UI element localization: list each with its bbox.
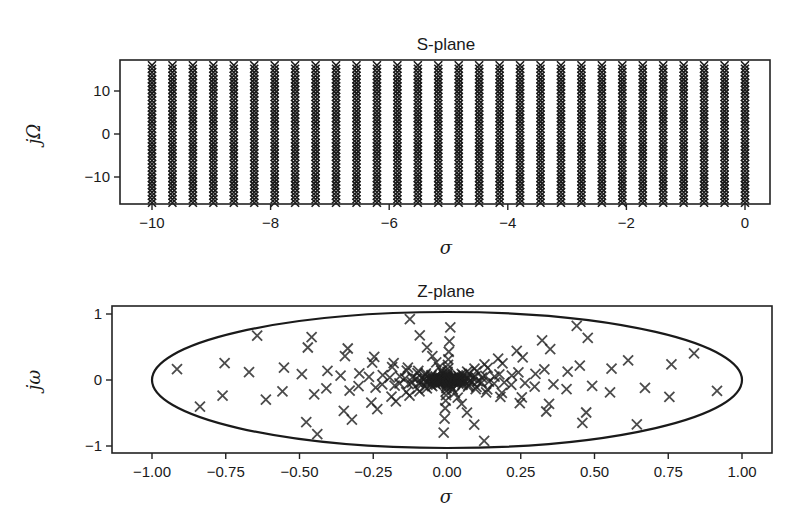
x-marker — [405, 391, 415, 401]
z-plane-title: Z-plane — [417, 282, 475, 301]
x-marker — [462, 408, 472, 418]
x-marker — [537, 335, 547, 345]
x-marker — [581, 407, 591, 417]
x-marker — [689, 348, 699, 358]
x-tick-label: 1.00 — [727, 463, 756, 480]
s-plane-chart: S-plane −10−8−6−4−20 100−10 σ jΩ — [23, 35, 770, 258]
x-tick-label: 0.75 — [654, 463, 683, 480]
x-marker — [172, 364, 182, 374]
y-tick-label: −10 — [85, 168, 110, 185]
x-marker — [605, 387, 615, 397]
x-marker — [220, 358, 230, 368]
x-marker — [321, 383, 331, 393]
x-marker — [623, 355, 633, 365]
x-marker — [364, 372, 374, 382]
x-marker — [322, 366, 332, 376]
x-marker — [575, 361, 585, 371]
x-tick-label: −2 — [618, 214, 635, 231]
x-marker — [445, 322, 455, 332]
x-tick-label: −6 — [381, 214, 398, 231]
x-marker — [347, 415, 357, 425]
x-tick-label: −0.50 — [281, 463, 319, 480]
x-marker — [307, 332, 317, 342]
s-plane-title: S-plane — [417, 35, 476, 54]
z-plane-chart: Z-plane −1.00−0.75−0.50−0.250.000.250.50… — [23, 282, 772, 507]
x-marker — [440, 414, 450, 424]
x-marker — [544, 399, 554, 409]
x-marker — [440, 403, 450, 413]
x-marker — [632, 419, 642, 429]
x-marker — [252, 331, 262, 341]
z-plane-points — [172, 314, 722, 446]
x-marker — [520, 378, 530, 388]
x-marker — [415, 330, 425, 340]
x-tick-label: −0.75 — [207, 463, 245, 480]
x-marker — [195, 402, 205, 412]
x-marker — [664, 392, 674, 402]
x-marker — [301, 417, 311, 427]
z-plane-x-label: σ — [440, 486, 453, 507]
x-marker — [340, 351, 350, 361]
x-tick-label: −4 — [499, 214, 516, 231]
x-marker — [261, 395, 271, 405]
x-marker — [562, 384, 572, 394]
z-plane-y-ticks: 10−1 — [85, 305, 112, 454]
x-tick-label: −0.25 — [354, 463, 392, 480]
x-marker — [530, 382, 540, 392]
x-marker — [607, 364, 617, 374]
x-marker — [312, 429, 322, 439]
x-tick-label: 0.25 — [506, 463, 535, 480]
s-plane-y-label: jΩ — [23, 124, 44, 149]
x-marker — [309, 389, 319, 399]
x-marker — [512, 346, 522, 356]
x-marker — [444, 336, 454, 346]
x-marker — [572, 321, 582, 331]
x-marker — [469, 420, 479, 430]
y-tick-label: −1 — [85, 437, 102, 454]
x-marker — [354, 368, 364, 378]
x-marker — [439, 428, 449, 438]
x-marker — [277, 386, 287, 396]
x-marker — [297, 369, 307, 379]
x-marker — [391, 396, 401, 406]
x-tick-label: −10 — [139, 214, 164, 231]
x-marker — [422, 342, 432, 352]
x-marker — [583, 333, 593, 343]
x-marker — [244, 367, 254, 377]
x-marker — [479, 436, 489, 446]
x-marker — [479, 359, 489, 369]
s-plane-y-ticks: 100−10 — [85, 82, 120, 185]
x-marker — [541, 406, 551, 416]
z-plane-x-ticks: −1.00−0.75−0.50−0.250.000.250.500.751.00 — [133, 453, 757, 480]
x-marker — [563, 367, 573, 377]
x-tick-label: −8 — [262, 214, 279, 231]
s-plane-x-ticks: −10−8−6−4−20 — [139, 204, 749, 231]
x-tick-label: 0 — [741, 214, 749, 231]
x-tick-label: 0.50 — [580, 463, 609, 480]
x-tick-label: −1.00 — [133, 463, 171, 480]
x-marker — [405, 314, 415, 324]
x-marker — [493, 354, 503, 364]
x-marker — [218, 391, 228, 401]
s-plane-x-label: σ — [440, 237, 453, 258]
x-marker — [336, 371, 346, 381]
x-marker — [587, 381, 597, 391]
y-tick-label: 1 — [94, 305, 102, 322]
figure: S-plane −10−8−6−4−20 100−10 σ jΩ Z-plane… — [0, 0, 812, 526]
y-tick-label: 0 — [102, 125, 110, 142]
x-marker — [577, 418, 587, 428]
x-tick-label: 0.00 — [432, 463, 461, 480]
x-marker — [343, 344, 353, 354]
x-marker — [279, 363, 289, 373]
x-marker — [712, 386, 722, 396]
z-plane-y-label: jω — [23, 370, 44, 395]
x-marker — [372, 404, 382, 414]
y-tick-label: 0 — [94, 371, 102, 388]
x-marker — [548, 379, 558, 389]
x-marker — [640, 383, 650, 393]
y-tick-label: 10 — [93, 82, 110, 99]
x-marker — [444, 347, 454, 357]
s-plane-points — [148, 61, 749, 207]
x-marker — [303, 343, 313, 353]
x-marker — [666, 359, 676, 369]
